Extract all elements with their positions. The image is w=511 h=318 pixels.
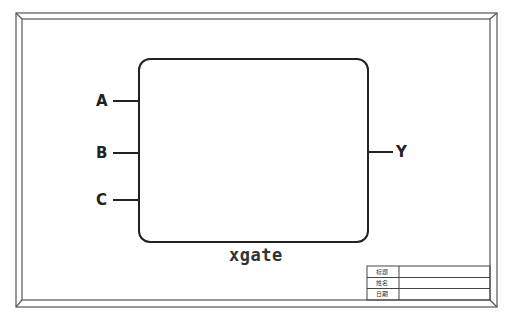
- title-block-label-name: 姓名: [376, 280, 388, 286]
- pin-label-b: B: [96, 146, 107, 161]
- title-block-label-date: 日期: [376, 291, 388, 297]
- title-block-label-title: 标题: [376, 269, 388, 275]
- gate-name-label: xgate: [229, 247, 283, 264]
- pin-label-c: C: [96, 193, 107, 208]
- pin-label-y: Y: [396, 145, 407, 160]
- frame-corner-tr: [490, 13, 497, 19]
- frame-corner-bl: [16, 300, 22, 307]
- frame-corner-tl: [16, 13, 22, 19]
- schematic-canvas: [0, 0, 511, 318]
- pin-label-a: A: [96, 94, 108, 109]
- frame-corner-br: [490, 300, 497, 307]
- gate-body[interactable]: [139, 59, 368, 242]
